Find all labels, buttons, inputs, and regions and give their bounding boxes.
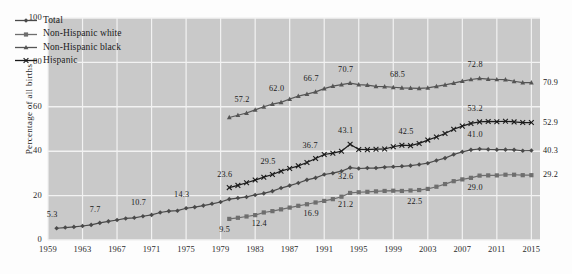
data-label: 10.7 bbox=[131, 198, 146, 207]
y-axis-tick: 20 bbox=[16, 190, 42, 200]
legend-label: Hispanic bbox=[43, 54, 78, 67]
data-label: 66.7 bbox=[304, 74, 319, 83]
data-label: 68.5 bbox=[390, 70, 405, 79]
series-end-label: 40.3 bbox=[543, 146, 558, 155]
chart-figure: Percentage of all births 020406080100 19… bbox=[0, 0, 572, 274]
data-label: 21.2 bbox=[338, 200, 353, 209]
legend-item[interactable]: Hispanic bbox=[14, 54, 122, 67]
data-label: 36.7 bbox=[303, 141, 318, 150]
y-axis-tick: 40 bbox=[16, 145, 42, 155]
data-label: 62.0 bbox=[269, 84, 284, 93]
series-end-label: 70.9 bbox=[543, 78, 558, 87]
data-label: 70.7 bbox=[338, 65, 353, 74]
data-label: 22.5 bbox=[407, 197, 422, 206]
data-label: 9.5 bbox=[219, 225, 230, 234]
data-label: 72.8 bbox=[468, 60, 483, 69]
data-label: 16.9 bbox=[304, 209, 319, 218]
y-axis-tick: 60 bbox=[16, 101, 42, 111]
legend-marker-triangle-icon bbox=[14, 41, 38, 54]
legend-marker-cross-icon bbox=[14, 54, 38, 67]
legend-marker-diamond-icon bbox=[14, 14, 38, 27]
data-label: 29.5 bbox=[260, 157, 275, 166]
data-label: 29.0 bbox=[468, 183, 483, 192]
legend-label: Non-Hispanic white bbox=[43, 27, 122, 40]
data-label: 42.5 bbox=[399, 127, 414, 136]
series-end-label: 52.9 bbox=[543, 118, 558, 127]
data-label: 41.0 bbox=[468, 130, 483, 139]
data-label: 5.3 bbox=[47, 210, 58, 219]
y-axis-tick: 0 bbox=[16, 234, 42, 244]
legend-label: Non-Hispanic black bbox=[43, 41, 121, 54]
data-label: 12.4 bbox=[252, 219, 267, 228]
legend-item[interactable]: Non-Hispanic white bbox=[14, 27, 122, 40]
data-label: 14.3 bbox=[174, 190, 189, 199]
data-label: 32.6 bbox=[338, 172, 353, 181]
data-label: 43.1 bbox=[338, 126, 353, 135]
legend-item[interactable]: Total bbox=[14, 14, 122, 27]
series-end-label: 29.2 bbox=[543, 170, 558, 179]
legend-marker-square-icon bbox=[14, 28, 38, 41]
legend-label: Total bbox=[43, 14, 63, 27]
data-label: 57.2 bbox=[235, 95, 250, 104]
legend-item[interactable]: Non-Hispanic black bbox=[14, 41, 122, 54]
plot-area bbox=[48, 18, 540, 240]
data-label: 23.6 bbox=[217, 170, 232, 179]
x-axis-tick: 2015 bbox=[511, 244, 551, 254]
data-label: 53.2 bbox=[468, 104, 483, 113]
data-label: 7.7 bbox=[90, 205, 101, 214]
chart-legend: TotalNon-Hispanic whiteNon-Hispanic blac… bbox=[14, 14, 122, 68]
series-lines bbox=[48, 18, 540, 240]
